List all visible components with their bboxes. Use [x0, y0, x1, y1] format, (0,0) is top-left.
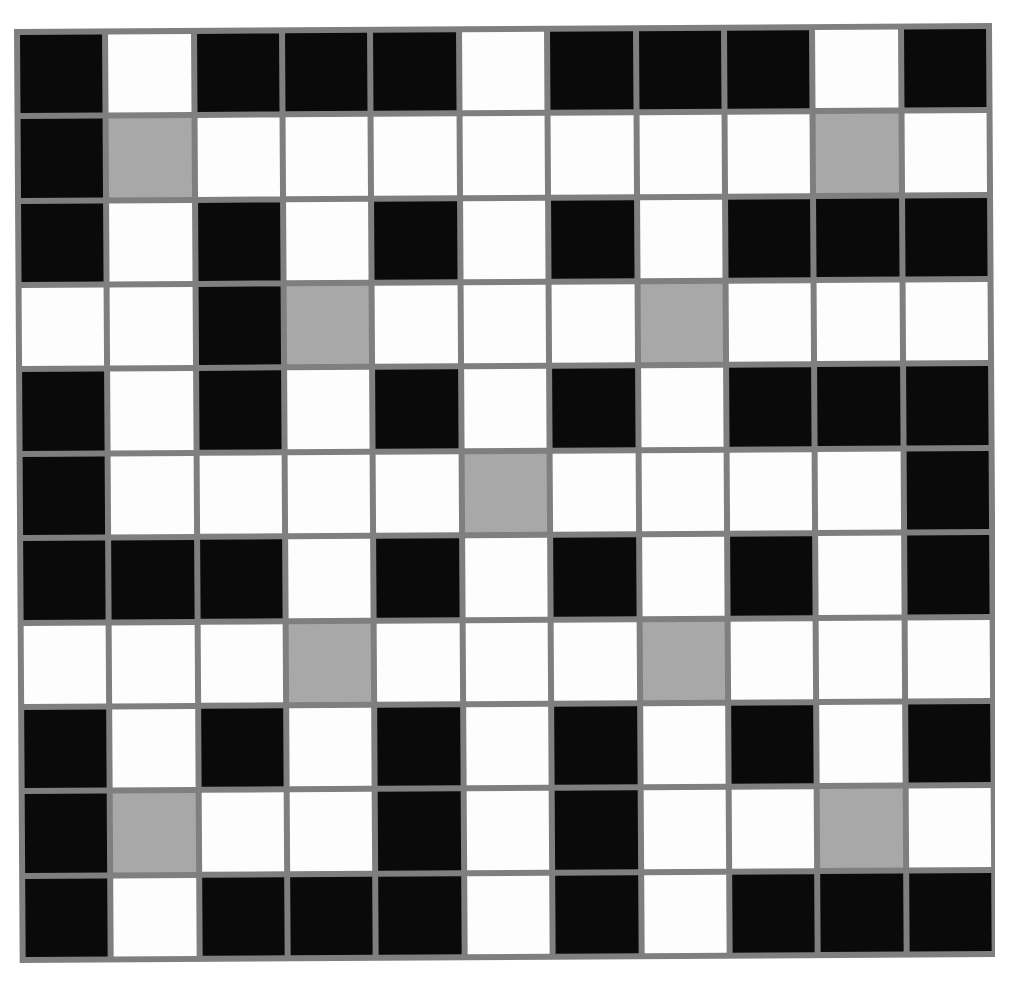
grid-cell-r10-c11 [908, 788, 991, 867]
grid-cell-r2-c3 [197, 118, 280, 197]
grid-cell-r11-c5 [379, 876, 462, 955]
grid-cell-r7-c7 [553, 537, 636, 616]
grid-cell-r1-c5 [373, 32, 456, 111]
grid-cell-r1-c11 [904, 29, 987, 108]
grid-cell-r10-c1 [25, 794, 108, 873]
grid-cell-r8-c8 [642, 621, 725, 700]
grid-cell-r1-c6 [462, 32, 545, 111]
grid-cell-r1-c3 [197, 33, 280, 112]
grid-cell-r7-c4 [288, 539, 371, 618]
grid-cell-r9-c4 [289, 708, 372, 787]
grid-cell-r5-c8 [641, 368, 724, 447]
grid-frame [14, 23, 998, 963]
grid-cell-r8-c3 [200, 624, 283, 703]
grid-cell-r4-c1 [22, 288, 105, 367]
grid-cell-r11-c2 [114, 878, 197, 957]
grid-cell-r6-c7 [553, 453, 636, 532]
grid-cell-r10-c9 [732, 789, 815, 868]
grid-cell-r7-c10 [818, 536, 901, 615]
grid-cell-r6-c11 [906, 451, 989, 530]
grid-cell-r9-c7 [554, 706, 637, 785]
grid-cell-r10-c10 [820, 789, 903, 868]
grid-cell-r9-c3 [201, 708, 284, 787]
grid-cell-r11-c4 [290, 876, 373, 955]
grid-cell-r8-c6 [465, 622, 548, 701]
grid-cell-r5-c1 [22, 372, 105, 451]
grid-cell-r10-c7 [555, 790, 638, 869]
grid-cell-r3-c10 [816, 198, 899, 277]
grid-cell-r9-c5 [378, 707, 461, 786]
grid-cell-r9-c8 [643, 706, 726, 785]
grid-cell-r4-c7 [552, 284, 635, 363]
grid-cell-r9-c9 [731, 705, 814, 784]
grid-cell-r6-c3 [199, 455, 282, 534]
grid-cell-r3-c6 [463, 200, 546, 279]
grid-cell-r3-c1 [21, 203, 104, 282]
grid-cell-r6-c4 [288, 455, 371, 534]
grid-cell-r2-c1 [21, 119, 104, 198]
grid-cell-r4-c9 [728, 283, 811, 362]
grid-cell-r8-c7 [554, 622, 637, 701]
grid-cell-r11-c6 [467, 875, 550, 954]
grid-cell-r1-c10 [815, 30, 898, 109]
grid-cell-r2-c2 [109, 118, 192, 197]
grid-cell-r2-c7 [551, 116, 634, 195]
grid-cell-r11-c9 [732, 874, 815, 953]
grid-cell-r5-c4 [287, 370, 370, 449]
grid-cell-r3-c5 [375, 201, 458, 280]
grid-cell-r1-c9 [727, 30, 810, 109]
grid-cell-r3-c3 [198, 202, 281, 281]
grid-cell-r3-c4 [286, 202, 369, 281]
grid-cell-r6-c2 [111, 456, 194, 535]
grid-cell-r5-c5 [376, 370, 459, 449]
grid-cell-r9-c1 [24, 709, 107, 788]
grid-cell-r7-c3 [200, 540, 283, 619]
grid-cell-r6-c1 [23, 456, 106, 535]
grid-cell-r6-c9 [730, 452, 813, 531]
grid-cell-r10-c2 [113, 793, 196, 872]
grid-cell-r5-c11 [906, 367, 989, 446]
grid-cell-r2-c4 [286, 117, 369, 196]
grid-cell-r5-c9 [729, 368, 812, 447]
grid-cell-r8-c2 [112, 624, 195, 703]
grid-cell-r4-c5 [375, 285, 458, 364]
grid-cell-r8-c1 [24, 625, 107, 704]
grid-cell-r10-c5 [378, 792, 461, 871]
grid-cell-r7-c2 [111, 540, 194, 619]
grid-cell-r4-c6 [463, 285, 546, 364]
grid-cell-r4-c3 [198, 286, 281, 365]
grid-cell-r1-c7 [550, 31, 633, 110]
grid-cell-r8-c9 [731, 621, 814, 700]
grid-cell-r5-c10 [817, 367, 900, 446]
grid-cell-r10-c8 [643, 790, 726, 869]
grid-cell-r6-c8 [641, 452, 724, 531]
grid-cell-r1-c8 [639, 31, 722, 110]
grid-cell-r2-c9 [727, 114, 810, 193]
grid-cell-r7-c1 [23, 541, 106, 620]
grid-cell-r11-c10 [820, 873, 903, 952]
grid-cell-r8-c11 [907, 620, 990, 699]
grid-cell-r7-c6 [465, 538, 548, 617]
pattern-grid [20, 29, 992, 957]
grid-cell-r1-c4 [285, 33, 368, 112]
grid-cell-r2-c6 [462, 116, 545, 195]
grid-cell-r10-c6 [466, 791, 549, 870]
grid-cell-r5-c3 [199, 371, 282, 450]
grid-pattern-page [0, 0, 1009, 983]
grid-cell-r11-c8 [644, 874, 727, 953]
grid-cell-r6-c10 [818, 451, 901, 530]
grid-cell-r2-c10 [816, 114, 899, 193]
grid-cell-r1-c1 [20, 34, 103, 113]
grid-cell-r7-c8 [642, 537, 725, 616]
grid-cell-r10-c4 [290, 792, 373, 871]
grid-cell-r10-c3 [201, 793, 284, 872]
paper-edge-bottom [0, 969, 1009, 983]
grid-cell-r9-c10 [819, 704, 902, 783]
grid-cell-r2-c8 [639, 115, 722, 194]
grid-cell-r7-c5 [377, 538, 460, 617]
grid-cell-r5-c2 [110, 371, 193, 450]
grid-cell-r9-c6 [466, 707, 549, 786]
grid-cell-r1-c2 [108, 34, 191, 113]
grid-cell-r8-c10 [819, 620, 902, 699]
grid-cell-r4-c10 [817, 283, 900, 362]
